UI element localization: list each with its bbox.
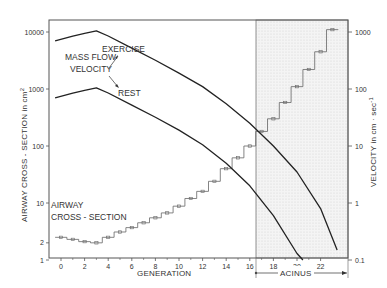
- y-left-tick-label: 1: [40, 257, 44, 264]
- cross-section-label: CROSS - SECTION: [51, 212, 127, 222]
- rest-label: REST: [118, 88, 141, 98]
- y-right-tick-label: 1: [355, 200, 359, 207]
- x-tick-label: 2: [83, 263, 87, 270]
- y-right-tick-label: 1000: [355, 29, 371, 36]
- y-left-tick-label: 10: [36, 200, 44, 207]
- y-right-tick-label: 10: [355, 143, 363, 150]
- y-left-tick-label: 2: [40, 239, 44, 246]
- y-right-tick-label: 0.1: [355, 257, 365, 264]
- exercise-label: EXERCISE: [102, 44, 145, 54]
- x-tick-label: 0: [59, 263, 63, 270]
- acinus-arrow-head: [342, 271, 347, 275]
- y-left-tick-label: 100: [32, 143, 44, 150]
- x-tick-label: 14: [222, 263, 230, 270]
- x-tick-label: 6: [130, 263, 134, 270]
- y-left-tick-label: 1000: [28, 86, 44, 93]
- y-right-tick-label: 100: [355, 86, 367, 93]
- y-axis-right-label: VELOCITY in cm · sec-1: [368, 96, 378, 187]
- velocity-label: VELOCITY: [70, 64, 112, 74]
- x-tick-label: 16: [246, 263, 254, 270]
- acinus-label: ACINUS: [280, 269, 311, 278]
- x-axis-label: GENERATION: [137, 269, 191, 278]
- airway-velocity-chart: 024681012141618202212101001000100000.111…: [0, 0, 387, 288]
- y-left-tick-label: 10000: [25, 29, 45, 36]
- y-axis-left-label: AIRWAY CROSS - SECTION in cm2: [19, 87, 29, 222]
- acinus-region: [256, 20, 348, 258]
- x-tick-label: 18: [270, 263, 278, 270]
- x-tick-label: 22: [317, 263, 325, 270]
- x-tick-label: 4: [106, 263, 110, 270]
- airway-label: AIRWAY: [51, 200, 84, 210]
- x-tick-label: 12: [199, 263, 207, 270]
